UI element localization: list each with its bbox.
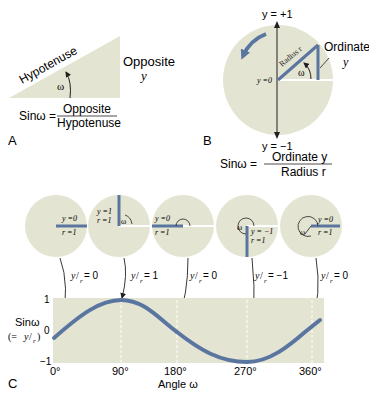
panel-a-letter: A [8, 133, 17, 148]
formula-a-denominator: Hypotenuse [57, 116, 121, 130]
angle-omega-label: ω [57, 80, 64, 92]
svg-text:= −1: = −1 [268, 270, 288, 281]
ratio-label-270: y/r= −1 [254, 270, 288, 285]
ratio-labels: y/r= 0 y/r= 1 y/r= 0 y/r= −1 y/r= 0 [70, 270, 349, 285]
svg-text:r: r [80, 277, 83, 285]
svg-text:= 0: = 0 [334, 270, 349, 281]
x-tick-0: 0° [50, 365, 61, 377]
panel-a: Hypotenuse ω Opposite y Sinω = Opposite … [8, 36, 175, 148]
circle-360-omega: ω [300, 228, 305, 237]
circle-270-r-label: r =1 [251, 236, 266, 245]
ordinate-label: Ordinate [324, 40, 369, 54]
formula-a-lhs: Sinω = [19, 109, 56, 123]
y-axis-label-line2: (=y/r) [8, 331, 40, 345]
vertical-axis-down-arrow-icon [274, 132, 280, 139]
sine-chart: 1 0 −1 Sinω (=y/r) 0° 90° 180° 270° 360°… [8, 294, 324, 391]
svg-text:r: r [264, 277, 267, 285]
svg-text:/: / [76, 270, 79, 281]
y-axis-label-line1: Sinω [15, 316, 40, 328]
vertical-axis-up-arrow-icon [274, 21, 280, 28]
ratio-label-90: y/r= 1 [130, 270, 159, 285]
panel-c-letter: C [8, 376, 17, 391]
formula-b-numerator: Ordinate y [272, 150, 327, 164]
x-tick-360: 360° [299, 365, 322, 377]
y-tick-0: 0 [44, 325, 50, 336]
svg-text:(=: (= [8, 331, 17, 343]
svg-text:/: / [326, 270, 329, 281]
y-tick-1: 1 [44, 294, 50, 305]
circle-270-y-label: y = −1 [250, 227, 273, 236]
circle-270-omega: ω [237, 223, 242, 232]
phase-circle-0: y =0 r =1 [25, 195, 87, 257]
circle-90-y-label: y =1 [96, 207, 112, 216]
right-triangle [9, 36, 120, 98]
opposite-var: y [139, 68, 147, 83]
svg-text:/: / [29, 331, 32, 342]
x-tick-180: 180° [164, 365, 187, 377]
circle-0-r-label: r =1 [62, 228, 77, 237]
formula-a-numerator: Opposite [63, 102, 111, 116]
circle-180-y-label: y =0 [154, 214, 170, 223]
ratio-label-180: y/r= 0 [189, 270, 218, 285]
opposite-label: Opposite [123, 54, 175, 69]
sine-diagram: Hypotenuse ω Opposite y Sinω = Opposite … [0, 0, 369, 396]
x-tick-90: 90° [112, 365, 129, 377]
panel-b: ω Radius r y =0 y = +1 y = −1 Ordinate y… [203, 8, 369, 179]
svg-text:r: r [140, 277, 143, 285]
svg-text:/: / [195, 270, 198, 281]
svg-text:= 0: = 0 [203, 270, 218, 281]
ratio-label-0: y/r= 0 [70, 270, 99, 285]
svg-text:= 1: = 1 [144, 270, 159, 281]
panel-b-letter: B [203, 133, 212, 148]
ordinate-var: y [342, 55, 349, 69]
svg-text:r: r [199, 277, 202, 285]
x-axis-label: Angle ω [158, 378, 198, 390]
center-y0-label: y =0 [256, 76, 272, 85]
x-tick-270: 270° [234, 365, 257, 377]
svg-text:/: / [260, 270, 263, 281]
svg-text:/: / [136, 270, 139, 281]
phase-circle-360: y =0 ω r =1 [280, 195, 342, 257]
svg-text:): ) [37, 331, 40, 343]
phase-circle-180: y =0 r =1 [152, 195, 214, 257]
formula-b-lhs: Sinω = [220, 157, 257, 171]
svg-text:= 0: = 0 [84, 270, 99, 281]
svg-text:r: r [33, 337, 36, 345]
circle-360-y-label: y =0 [317, 215, 333, 224]
formula-b-denominator: Radius r [281, 165, 326, 179]
phase-circle-270: ω y = −1 r =1 [216, 195, 278, 257]
circle-0-y-label: y =0 [61, 214, 77, 223]
phase-circle-90: y =1 r =1 ω [88, 195, 150, 257]
circle-360-r-label: r =1 [318, 228, 333, 237]
circle-90-r-label: r =1 [97, 216, 112, 225]
circle-180-r-label: r =1 [155, 228, 170, 237]
circle-90-omega: ω [121, 217, 126, 226]
y-plus-one-label: y = +1 [262, 8, 293, 20]
ratio-label-360: y/r= 0 [320, 270, 349, 285]
panel-c-circles: y =0 r =1 y =1 r =1 ω y =0 r =1 [25, 195, 342, 257]
angle-omega-b: ω [298, 67, 305, 78]
svg-text:r: r [330, 277, 333, 285]
